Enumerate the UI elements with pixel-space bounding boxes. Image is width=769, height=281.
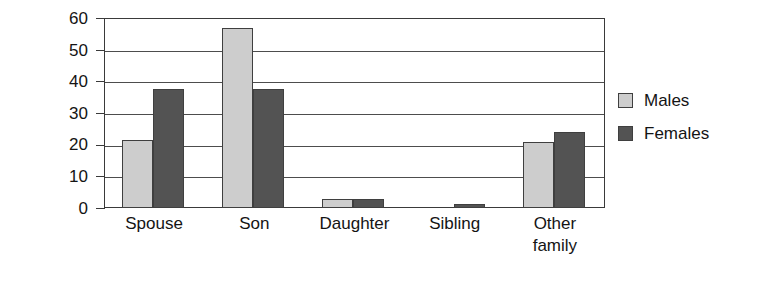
legend-item-females[interactable]: Females bbox=[618, 117, 709, 150]
bar-chart-figure: Percentage 60 50 40 30 20 10 0 bbox=[0, 0, 769, 281]
legend-swatch-females-icon bbox=[618, 126, 633, 141]
y-axis-title: Percentage bbox=[28, 0, 50, 40]
bar-son-females[interactable] bbox=[253, 89, 284, 208]
y-tick-label-60: 60 bbox=[48, 10, 88, 27]
x-label-son: Son bbox=[204, 213, 304, 235]
x-axis-labels: Spouse Son Daughter Sibling Other family bbox=[104, 213, 605, 275]
y-tick-label-30: 30 bbox=[48, 105, 88, 122]
bar-other-family-females[interactable] bbox=[554, 132, 585, 208]
y-tick-label-10: 10 bbox=[48, 168, 88, 185]
x-label-sibling: Sibling bbox=[405, 213, 505, 235]
bar-group-son bbox=[204, 18, 304, 208]
y-tick-label-40: 40 bbox=[48, 73, 88, 90]
legend-label-males: Males bbox=[644, 92, 689, 109]
bar-daughter-males[interactable] bbox=[322, 199, 353, 209]
bar-group-spouse bbox=[104, 18, 204, 208]
bar-group-sibling bbox=[405, 18, 505, 208]
y-tick-label-20: 20 bbox=[48, 136, 88, 153]
bar-son-males[interactable] bbox=[222, 28, 253, 209]
bar-spouse-females[interactable] bbox=[153, 89, 184, 208]
x-label-daughter: Daughter bbox=[304, 213, 404, 235]
legend-label-females: Females bbox=[644, 125, 709, 142]
bar-spouse-males[interactable] bbox=[122, 140, 153, 208]
x-label-other-family: Other family bbox=[505, 213, 605, 257]
x-label-spouse: Spouse bbox=[104, 213, 204, 235]
y-tick-label-0: 0 bbox=[48, 200, 88, 217]
chart-legend: Males Females bbox=[618, 84, 709, 150]
bar-group-daughter bbox=[304, 18, 404, 208]
legend-swatch-males-icon bbox=[618, 93, 633, 108]
legend-item-males[interactable]: Males bbox=[618, 84, 709, 117]
y-tick-label-50: 50 bbox=[48, 42, 88, 59]
y-tick-mark-0 bbox=[96, 208, 105, 209]
bar-series-container bbox=[104, 18, 605, 208]
bar-other-family-males[interactable] bbox=[523, 142, 554, 209]
bar-group-other-family bbox=[505, 18, 605, 208]
bar-daughter-females[interactable] bbox=[353, 199, 384, 209]
bar-sibling-females[interactable] bbox=[454, 204, 485, 209]
